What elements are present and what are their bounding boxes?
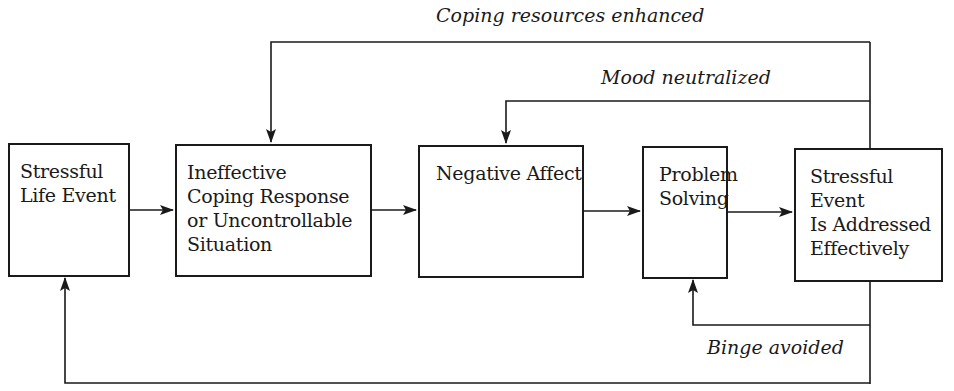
box-negative-affect: Negative Affect <box>418 145 584 278</box>
box-ineffective-coping: Ineffective Coping Response or Uncontrol… <box>175 144 372 277</box>
label-binge-avoided: Binge avoided <box>707 336 844 358</box>
box-label: Problem Solving <box>659 162 738 210</box>
feedback-to-start <box>65 278 870 383</box>
box-problem-solving: Problem Solving <box>642 146 728 279</box>
box-label: Stressful Event Is Addressed Effectively <box>810 164 931 260</box>
flow-diagram: Stressful Life Event Ineffective Coping … <box>0 0 954 391</box>
feedback-coping-resources <box>271 42 870 142</box>
label-coping-resources-enhanced: Coping resources enhanced <box>436 4 705 26</box>
label-mood-neutralized: Mood neutralized <box>601 66 771 88</box>
box-label: Negative Affect <box>436 161 582 185</box>
feedback-binge-avoided <box>693 280 870 325</box>
box-stressful-life-event: Stressful Life Event <box>8 143 130 277</box>
box-label: Ineffective Coping Response or Uncontrol… <box>187 160 352 256</box>
feedback-mood-neutralized <box>506 101 870 143</box>
box-event-addressed: Stressful Event Is Addressed Effectively <box>794 148 943 282</box>
box-label: Stressful Life Event <box>20 159 116 207</box>
